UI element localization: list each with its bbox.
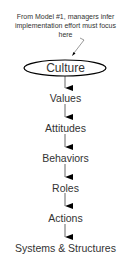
node-attitudes: Attitudes xyxy=(0,122,131,134)
annotation-pointer xyxy=(74,38,84,53)
node-behaviors: Behaviors xyxy=(0,152,131,164)
node-systems-structures: Systems & Structures xyxy=(0,242,131,254)
node-culture: Culture xyxy=(0,62,131,74)
node-values: Values xyxy=(0,92,131,104)
connector-graphics xyxy=(0,0,131,272)
node-actions: Actions xyxy=(0,212,131,224)
node-roles: Roles xyxy=(0,182,131,194)
